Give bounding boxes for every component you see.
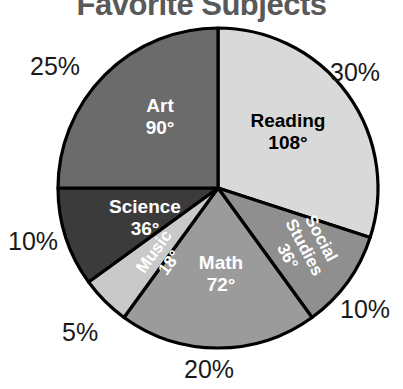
chart-page: Favorite Subjects Reading108°SocialStudi…	[0, 0, 403, 389]
slice-label-line: 36°	[131, 218, 160, 239]
slice-label-line: Science	[109, 196, 181, 217]
percent-label-science: 10%	[8, 227, 58, 256]
slice-label-line: 108°	[268, 132, 307, 153]
percent-label-math: 20%	[184, 355, 234, 384]
slice-label-line: Art	[146, 95, 174, 116]
percent-label-social-studies: 10%	[340, 295, 390, 324]
slice-label-line: Math	[199, 252, 243, 273]
percent-label-reading: 30%	[330, 58, 380, 87]
slice-label-line: 90°	[146, 117, 175, 138]
percent-label-art: 25%	[30, 52, 80, 81]
percent-label-music: 5%	[62, 318, 98, 347]
slice-label-art: Art90°	[146, 95, 175, 137]
slice-label-line: 72°	[207, 274, 236, 295]
slice-label-line: Reading	[251, 110, 326, 131]
pie-slice-art[interactable]	[58, 28, 218, 188]
